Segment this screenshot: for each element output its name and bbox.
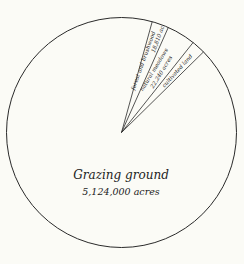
grazing-label: Grazing ground — [73, 168, 169, 182]
pie-chart: forest and brushwood 18,810 ac natural m… — [0, 0, 244, 264]
grazing-value-label: 5,124,000 acres — [82, 186, 160, 197]
